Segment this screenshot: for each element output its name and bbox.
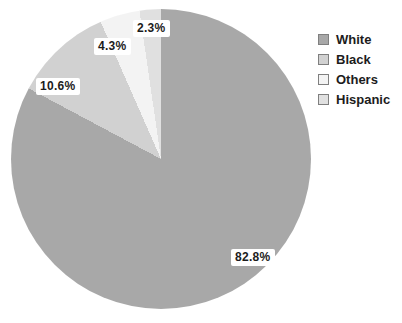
slice-label-hispanic: 2.3% <box>133 20 170 37</box>
legend-item-white: White <box>318 33 390 46</box>
slice-label-white: 82.8% <box>231 249 275 266</box>
legend-label-others: Others <box>336 73 378 86</box>
legend-swatch-others <box>318 74 329 85</box>
legend-label-white: White <box>336 33 371 46</box>
slice-label-others: 4.3% <box>94 38 131 55</box>
legend-label-black: Black <box>336 53 371 66</box>
legend-swatch-hispanic <box>318 94 329 105</box>
legend-swatch-black <box>318 54 329 65</box>
legend: White Black Others Hispanic <box>318 33 390 106</box>
pie-chart-figure: 82.8% 10.6% 4.3% 2.3% White Black Others… <box>0 0 402 323</box>
legend-item-hispanic: Hispanic <box>318 93 390 106</box>
legend-item-others: Others <box>318 73 390 86</box>
legend-swatch-white <box>318 34 329 45</box>
legend-item-black: Black <box>318 53 390 66</box>
legend-label-hispanic: Hispanic <box>336 93 390 106</box>
slice-label-black: 10.6% <box>36 78 80 95</box>
